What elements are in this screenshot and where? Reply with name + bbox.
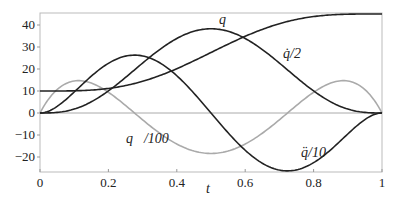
x-tick-label: 0: [37, 175, 44, 190]
x-tick-label: 0.2: [100, 175, 116, 190]
y-tick-label: 10: [22, 83, 35, 98]
label-q-ddot: q̈/10: [301, 145, 326, 160]
curve-q: [40, 14, 382, 91]
y-tick-label: 0: [29, 105, 36, 120]
y-tick-label: 20: [22, 61, 35, 76]
label-q-dot: q̇/2: [283, 46, 301, 61]
y-tick-label: 30: [22, 39, 35, 54]
trajectory-chart: −20−10010203040 00.20.40.60.81 q q̇/2 q̈…: [0, 0, 398, 199]
curve-q-dot: [40, 29, 382, 113]
x-axis-label: t: [206, 181, 211, 196]
y-tick-label: −20: [15, 149, 35, 164]
curve-q-dddot: [40, 81, 382, 154]
curves: [40, 14, 382, 171]
x-tick-label: 0.4: [169, 175, 186, 190]
x-tick-label: 0.8: [305, 175, 321, 190]
label-q-dddot: q⃛/100: [126, 131, 169, 146]
plot-frame: [40, 13, 382, 172]
x-tick-label: 1: [379, 175, 386, 190]
y-tick-label: −10: [15, 127, 35, 142]
y-axis: −20−10010203040: [15, 17, 40, 164]
x-tick-label: 0.6: [237, 175, 254, 190]
y-tick-label: 40: [22, 17, 35, 32]
label-q: q: [219, 12, 226, 27]
